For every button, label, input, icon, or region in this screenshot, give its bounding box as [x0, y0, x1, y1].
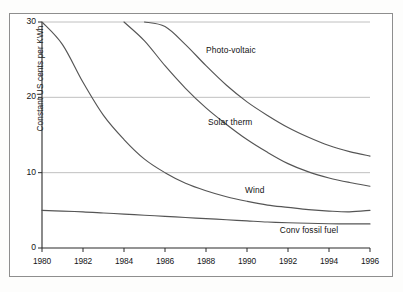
- x-tick-label-1980: 1980: [24, 256, 60, 266]
- series-label-conv-fossil-fuel: Conv fossil fuel: [280, 225, 338, 235]
- series-label-wind: Wind: [245, 185, 264, 195]
- series-label-photo-voltaic: Photo-voltaic: [206, 45, 256, 55]
- plot-area: [42, 22, 370, 248]
- y-tick-label-10: 10: [16, 168, 36, 177]
- x-tick-label-1992: 1992: [270, 256, 306, 266]
- x-tick-label-1994: 1994: [311, 256, 347, 266]
- x-tick-label-1982: 1982: [65, 256, 101, 266]
- series-line-photo-voltaic: [145, 22, 371, 156]
- y-axis-title: Constant US cents per KWh: [36, 0, 45, 159]
- y-tick-label-20: 20: [16, 92, 36, 101]
- series-line-conv-fossil-fuel: [42, 210, 370, 224]
- y-tick-label-0: 0: [16, 243, 36, 252]
- x-tick-label-1984: 1984: [106, 256, 142, 266]
- x-tick-label-1990: 1990: [229, 256, 265, 266]
- axis-lines: [42, 22, 370, 248]
- x-tick-label-1988: 1988: [188, 256, 224, 266]
- x-tick-label-1996: 1996: [352, 256, 388, 266]
- chart-svg: [42, 22, 370, 248]
- y-tick-label-30: 30: [16, 17, 36, 26]
- x-tick-label-1986: 1986: [147, 256, 183, 266]
- chart-figure: Constant US cents per KWh 3020100 198019…: [0, 0, 403, 292]
- series-label-solar-therm: Solar therm: [208, 117, 252, 127]
